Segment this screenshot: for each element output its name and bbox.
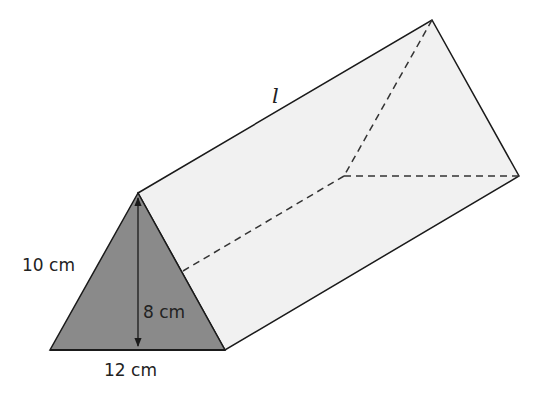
base-label: 12 cm [104,360,157,380]
height-label: 8 cm [143,302,185,322]
length-label: l [272,84,279,108]
slant-side-label: 10 cm [22,255,75,275]
prism-diagram: l 10 cm 8 cm 12 cm [0,0,533,398]
